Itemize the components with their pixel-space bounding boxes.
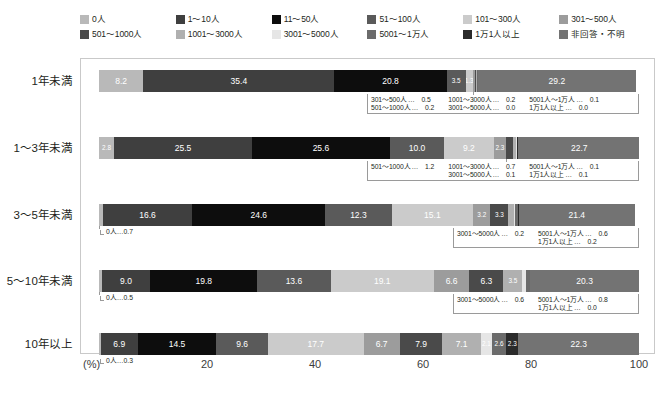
annotation-dots: … xyxy=(573,238,582,246)
annotation-value: 0.7 xyxy=(500,163,515,171)
annotation-name: 0人 xyxy=(106,228,117,235)
bar-segment[interactable]: 8.2 xyxy=(99,70,143,92)
bar-segment[interactable]: 19.8 xyxy=(150,270,257,292)
segment-value-label: 9.2 xyxy=(463,137,475,159)
bar-segment[interactable]: 2.3 xyxy=(506,333,518,355)
bar-segment[interactable]: 3.2 xyxy=(473,204,490,226)
annotation-value: 0.7 xyxy=(124,228,133,235)
bar-segment[interactable]: 9.6 xyxy=(216,333,268,355)
annotation-name: 3001〜5000人 xyxy=(448,171,491,179)
segment-value-label: 3.5 xyxy=(452,70,461,92)
bar-segment[interactable]: 20.3 xyxy=(530,270,639,292)
bar-segment[interactable]: 22.7 xyxy=(518,137,639,159)
bar-segment[interactable]: 10.0 xyxy=(390,137,444,159)
annotation-dots: … xyxy=(117,228,124,235)
bar-segment[interactable]: 6.3 xyxy=(469,270,503,292)
annotation-dots: … xyxy=(584,296,593,304)
segment-value-label: 2.3 xyxy=(495,137,504,159)
callout-line: 1万1人以上…0.1 xyxy=(529,171,599,179)
bar-segment[interactable]: 25.5 xyxy=(114,137,252,159)
bar-segment[interactable]: 3.5 xyxy=(503,270,522,292)
row-label-1: 1〜3年未満 xyxy=(0,139,72,155)
annotation-name: 1001〜3000人 xyxy=(448,96,491,104)
segment-value-label: 7.9 xyxy=(415,333,427,355)
bar-segment[interactable]: 21.4 xyxy=(519,204,635,226)
callout-column: 5001人〜1万人…0.11万1人以上…0.0 xyxy=(529,96,599,113)
annotation-dots: … xyxy=(411,104,420,112)
callout-column: 5001人〜1万人…0.11万1人以上…0.1 xyxy=(529,163,599,180)
bar-segment[interactable]: 12.3 xyxy=(325,204,391,226)
annotation-dots: … xyxy=(584,230,593,238)
segment-value-label: 9.0 xyxy=(120,270,132,292)
annotation-value: 0.1 xyxy=(584,163,599,171)
bar-segment[interactable]: 2.1 xyxy=(481,333,492,355)
bar-rows: 1年未満8.235.420.83.51.329.2301〜500人…0.5501… xyxy=(0,0,671,396)
segment-value-label: 14.5 xyxy=(169,333,186,355)
axis-tick-label: 80 xyxy=(525,358,537,370)
segment-value-label: 9.6 xyxy=(236,333,248,355)
segment-value-label: 7.1 xyxy=(456,333,468,355)
bar-segment[interactable]: 29.2 xyxy=(478,70,636,92)
bar-segment[interactable]: 35.4 xyxy=(143,70,334,92)
callout-leader-line xyxy=(99,292,100,295)
segment-value-label: 17.7 xyxy=(308,333,325,355)
callout-column: 501〜1000人…1.2 xyxy=(371,163,434,180)
annotation-value: 0.6 xyxy=(593,230,608,238)
leader-elbow-icon xyxy=(100,296,104,301)
row-label-0: 1年未満 xyxy=(0,72,72,88)
callout-line: 1万1人以上…0.0 xyxy=(538,304,608,312)
annotation-name: 3001〜5000人 xyxy=(448,104,491,112)
x-axis: (%)20406080100 xyxy=(0,358,671,380)
callout-column: 5001人〜1万人…0.61万1人以上…0.2 xyxy=(538,230,608,247)
annotation-value: 0.0 xyxy=(573,104,588,112)
bar-segment[interactable]: 20.8 xyxy=(334,70,446,92)
bar-segment[interactable]: 9.2 xyxy=(444,137,494,159)
bar-segment[interactable]: 7.1 xyxy=(442,333,480,355)
annotation-name: 1001〜3000人 xyxy=(448,163,491,171)
bar-segment[interactable]: 17.7 xyxy=(268,333,364,355)
bar-segment[interactable]: 13.6 xyxy=(257,270,330,292)
bar-segment[interactable]: 6.6 xyxy=(434,270,470,292)
annotation-dots: … xyxy=(407,96,416,104)
bar-segment[interactable]: 6.7 xyxy=(364,333,400,355)
annotation-value: 0.1 xyxy=(584,96,599,104)
annotation-name: 0人 xyxy=(106,294,117,301)
callout-column: 1001〜3000人…0.73001〜5000人…0.1 xyxy=(448,163,515,180)
annotation-value: 0.1 xyxy=(573,171,588,179)
callout-line: 1万1人以上…0.2 xyxy=(538,238,608,246)
bar-segment[interactable]: 1.3 xyxy=(466,70,473,92)
bar-segment[interactable]: 7.9 xyxy=(400,333,443,355)
callout-annotation: 3001〜5000人…0.25001人〜1万人…0.61万1人以上…0.2 xyxy=(453,228,639,248)
segment-value-label: 16.6 xyxy=(139,204,156,226)
annotation-value: 0.6 xyxy=(509,296,524,304)
callout-column: 5001人〜1万人…0.81万1人以上…0.0 xyxy=(538,296,608,313)
annotation-value: 0.2 xyxy=(419,104,434,112)
annotation-name: 1万1人以上 xyxy=(529,104,564,112)
bar-segment[interactable]: 2.8 xyxy=(99,137,114,159)
segment-value-label: 2.6 xyxy=(495,333,504,355)
segment-value-label: 6.6 xyxy=(446,270,458,292)
segment-value-label: 29.2 xyxy=(549,70,566,92)
callout-line: 501〜1000人…1.2 xyxy=(371,163,434,171)
callout-column: 3001〜5000人…0.2 xyxy=(457,230,524,247)
annotation-name: 1万1人以上 xyxy=(529,171,564,179)
annotation-value: 0.5 xyxy=(416,96,431,104)
annotation-dots: … xyxy=(492,104,501,112)
bar-segment[interactable]: 6.9 xyxy=(101,333,138,355)
bar-segment[interactable]: 22.3 xyxy=(518,333,638,355)
bar-segment[interactable]: 14.5 xyxy=(138,333,216,355)
bar-segment[interactable]: 3.5 xyxy=(447,70,466,92)
segment-value-label: 6.9 xyxy=(113,333,125,355)
bar-segment[interactable]: 3.3 xyxy=(490,204,508,226)
bar-segment[interactable]: 19.1 xyxy=(331,270,434,292)
callout-line: 3001〜5000人…0.6 xyxy=(457,296,524,304)
bar-segment[interactable]: 16.6 xyxy=(103,204,193,226)
bar-segment[interactable]: 15.1 xyxy=(392,204,474,226)
bar-segment[interactable]: 2.6 xyxy=(492,333,506,355)
bar-segment[interactable]: 9.0 xyxy=(102,270,151,292)
bar-segment[interactable]: 2.3 xyxy=(494,137,506,159)
bar-segment[interactable]: 24.6 xyxy=(192,204,325,226)
bar-segment[interactable]: 25.6 xyxy=(252,137,390,159)
annotation-name: 3001〜5000人 xyxy=(457,296,500,304)
callout-leader-line xyxy=(473,92,474,95)
